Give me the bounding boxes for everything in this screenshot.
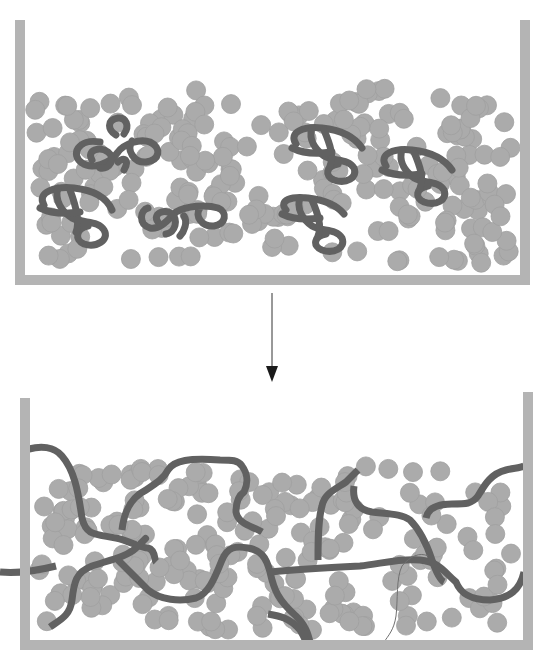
particle <box>390 592 409 611</box>
particle <box>431 462 450 481</box>
particle <box>379 222 398 241</box>
particle <box>502 544 521 563</box>
particle <box>49 479 68 498</box>
particle <box>199 484 218 503</box>
particle <box>248 606 267 625</box>
particle <box>398 205 417 224</box>
particle <box>431 89 450 108</box>
particle <box>159 611 178 630</box>
particle <box>89 569 108 588</box>
particle <box>339 515 358 534</box>
particle <box>334 110 353 129</box>
particle <box>179 185 198 204</box>
particle <box>370 119 389 138</box>
particle <box>158 98 177 117</box>
particle <box>240 205 259 224</box>
particle <box>273 473 292 492</box>
particle <box>222 95 241 114</box>
particle <box>54 536 73 555</box>
particle <box>180 146 199 165</box>
particle <box>101 94 120 113</box>
particle <box>39 246 58 265</box>
particle <box>121 250 140 269</box>
particle <box>320 604 339 623</box>
particle <box>224 224 243 243</box>
particle <box>348 242 367 261</box>
particle <box>181 247 200 266</box>
particle <box>45 591 64 610</box>
particle <box>35 497 54 516</box>
particle <box>252 116 271 135</box>
particle <box>465 234 484 253</box>
particle <box>325 586 344 605</box>
particle <box>375 79 394 98</box>
particle <box>188 505 207 524</box>
diagram-canvas <box>0 0 552 650</box>
particle <box>220 166 239 185</box>
particle <box>478 174 497 193</box>
particle <box>379 459 398 478</box>
particle <box>102 465 121 484</box>
particle <box>491 207 510 226</box>
particle <box>298 161 317 180</box>
particle <box>397 616 416 635</box>
particle <box>340 91 359 110</box>
particle <box>213 147 232 166</box>
particle <box>491 147 510 166</box>
particle <box>436 213 455 232</box>
particle <box>186 463 205 482</box>
particle <box>253 486 272 505</box>
particle <box>81 588 100 607</box>
particle <box>81 99 100 118</box>
particle <box>461 188 480 207</box>
particle <box>58 96 77 115</box>
particle <box>46 513 65 532</box>
particle <box>472 253 491 272</box>
particle <box>171 551 190 570</box>
particle <box>320 539 339 558</box>
particle <box>488 613 507 632</box>
particle <box>290 499 309 518</box>
particle <box>364 520 383 539</box>
particle <box>357 80 376 99</box>
particle <box>237 137 256 156</box>
particle <box>400 483 419 502</box>
particle <box>442 608 461 627</box>
particle <box>485 508 504 527</box>
particle <box>190 228 209 247</box>
particle <box>276 548 295 567</box>
particle <box>158 490 177 509</box>
particle <box>467 96 486 115</box>
particle <box>265 229 284 248</box>
particle <box>122 173 141 192</box>
particle <box>195 115 214 134</box>
particle <box>417 612 436 631</box>
down-arrow <box>266 293 278 382</box>
particle <box>486 525 505 544</box>
particle <box>430 248 449 267</box>
particle <box>43 119 62 138</box>
particle <box>267 507 286 526</box>
particle <box>133 595 152 614</box>
particle <box>340 612 359 631</box>
particle <box>133 463 152 482</box>
particle <box>26 100 45 119</box>
particle <box>464 541 483 560</box>
particle <box>394 109 413 128</box>
particle <box>488 575 507 594</box>
top-panel <box>20 20 525 280</box>
particle <box>186 535 205 554</box>
particle <box>388 252 407 271</box>
particle <box>149 248 168 267</box>
particle <box>374 180 393 199</box>
particle <box>442 116 461 135</box>
particle <box>123 96 142 115</box>
particle <box>404 463 423 482</box>
particle <box>495 113 514 132</box>
bottom-panel <box>0 392 528 646</box>
particle <box>119 190 138 209</box>
particle <box>202 612 221 631</box>
particle <box>48 155 67 174</box>
